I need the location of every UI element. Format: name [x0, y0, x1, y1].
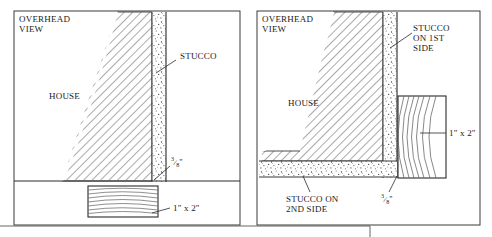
board-size-label-right: 1" x 2"	[449, 128, 476, 138]
overhead-view-line2-left: VIEW	[19, 24, 43, 34]
overhead-view-line2-right: VIEW	[262, 24, 286, 34]
panel-left	[14, 11, 240, 225]
stucco-label-left: STUCCO	[180, 51, 217, 61]
overhead-view-line1-left: OVERHEAD	[19, 14, 70, 24]
gap-dimension-label-left: 3/8"	[171, 156, 183, 168]
overhead-view-label-left: OVERHEADVIEW	[19, 14, 70, 34]
overhead-view-line1-right: OVERHEAD	[262, 14, 313, 24]
board-size-label-left: 1" x 2"	[173, 203, 200, 213]
gap-dimension-label-right: 3/8"	[381, 193, 393, 205]
house-label-left: HOUSE	[49, 91, 80, 101]
stucco-second-side-leader-line	[303, 176, 310, 192]
house-label-right: HOUSE	[288, 98, 319, 108]
stucco-second-side-label: STUCCO ON2ND SIDE	[286, 194, 339, 214]
board-1x2-right	[398, 96, 446, 178]
stucco-band-second-side	[259, 161, 397, 177]
stucco-second-side-line2: 2ND SIDE	[286, 204, 327, 214]
stucco-band-first-side	[383, 12, 397, 178]
stucco-first-side-line3: SIDE	[413, 43, 434, 53]
gap-unit-left: "	[179, 158, 182, 167]
gap-unit-right: "	[389, 195, 392, 204]
figure-canvas: OVERHEADVIEW HOUSE STUCCO 3/8" 1" x 2" O…	[0, 0, 492, 237]
stucco-first-side-line1: STUCCO	[413, 23, 450, 33]
board-1x2-left	[88, 186, 158, 217]
overhead-view-label-right: OVERHEADVIEW	[262, 14, 313, 34]
stucco-first-side-line2: ON 1ST	[413, 33, 444, 43]
gap-leader-line-right	[389, 176, 397, 192]
stucco-band-left	[152, 12, 166, 182]
stucco-first-side-label: STUCCOON 1STSIDE	[413, 23, 450, 53]
stucco-second-side-line1: STUCCO ON	[286, 194, 339, 204]
